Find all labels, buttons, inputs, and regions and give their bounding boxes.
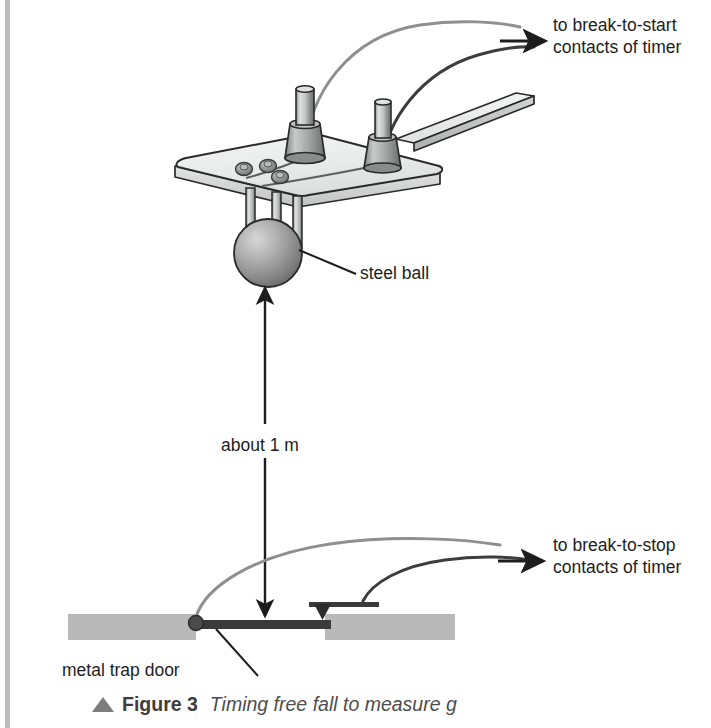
left-margin-rule (5, 0, 10, 728)
steel-ball-leader (299, 250, 356, 274)
figure-caption: Figure 3 Timing free fall to measure g (92, 693, 457, 716)
up-triangle-icon (92, 697, 114, 712)
label-break-to-start: to break-to-startcontacts of timer (553, 14, 681, 59)
free-fall-apparatus-diagram (0, 0, 711, 728)
figure-title: Timing free fall to measure g (210, 693, 457, 716)
label-break-to-stop: to break-to-stopcontacts of timer (553, 534, 681, 579)
stop-wire-secondary (363, 557, 530, 601)
label-break-to-stop-line1: to break-to-stop (553, 535, 676, 555)
trap-door (196, 620, 331, 629)
label-metal-trap-door: metal trap door (62, 659, 180, 681)
trap-door-hinge (189, 616, 204, 631)
label-break-to-stop-line2: contacts of timer (553, 557, 681, 577)
trap-door-leader (216, 629, 258, 676)
figure-number: Figure 3 (122, 693, 198, 716)
base-block-left (68, 614, 196, 640)
label-drop-height: about 1 m (217, 433, 303, 457)
terminal-post-right (364, 99, 401, 173)
label-break-to-start-line1: to break-to-start (553, 15, 677, 35)
label-steel-ball: steel ball (360, 262, 429, 284)
base-block-right (325, 614, 455, 640)
lever-strip (396, 93, 534, 151)
figure-page: to break-to-startcontacts of timer to br… (0, 0, 711, 728)
steel-ball (234, 219, 302, 287)
label-break-to-start-line2: contacts of timer (553, 37, 681, 57)
